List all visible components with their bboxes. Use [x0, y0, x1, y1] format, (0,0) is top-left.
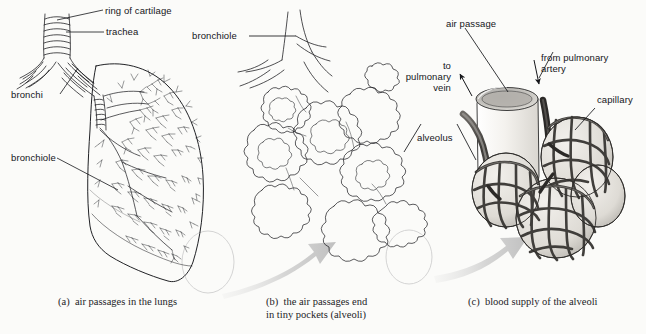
label-bronchi: bronchi: [11, 89, 43, 100]
highlight-circle-a: [182, 231, 234, 293]
label-from-pulmonary-artery: from pulmonary artery: [541, 52, 608, 74]
bronchiole-foliage: [94, 70, 203, 263]
bronchial-tree: [100, 91, 172, 250]
label-alveolus: alveolus: [417, 132, 453, 143]
trachea-shape: [44, 14, 71, 58]
label-ring-of-cartilage: ring of cartilage: [105, 5, 172, 16]
figure-canvas: ring of cartilage trachea bronchi bronch…: [0, 0, 646, 334]
diagram-artwork: [0, 0, 646, 334]
leader-air-passage: [465, 28, 508, 92]
panel-b-bronchiole-stems: [238, 10, 332, 92]
caption-panel-b-line2: in tiny pockets (alveoli): [266, 309, 366, 322]
caption-panel-b-line1: (b) the air passages end: [266, 296, 367, 309]
leader-ring-of-cartilage: [57, 10, 103, 20]
label-capillary: capillary: [597, 94, 633, 105]
panel-a-leaders: [57, 10, 118, 190]
zoom-arrow-b-to-c: [434, 237, 528, 283]
label-air-passage: air passage: [446, 18, 496, 29]
highlight-circle-b: [386, 230, 432, 284]
zoom-arrow-a-to-b: [222, 242, 336, 299]
label-bronchiole-b: bronchiole: [192, 30, 237, 41]
label-to-pulmonary-vein: to pulmonary vein: [396, 60, 451, 93]
leader-bronchi: [60, 68, 78, 94]
panel-a-artwork: [17, 14, 203, 282]
panel-c-artwork: [463, 87, 625, 260]
arrow-from-pulmonary-artery: [534, 60, 539, 84]
lung-outline: [88, 64, 204, 282]
arrow-to-pulmonary-vein: [460, 74, 472, 96]
label-trachea: trachea: [106, 26, 138, 37]
panel-b-artwork: [238, 10, 428, 261]
label-bronchiole-a: bronchiole: [11, 152, 56, 163]
caption-panel-a: (a) air passages in the lungs: [58, 296, 177, 309]
caption-panel-c: (c) blood supply of the alveoli: [468, 296, 597, 309]
